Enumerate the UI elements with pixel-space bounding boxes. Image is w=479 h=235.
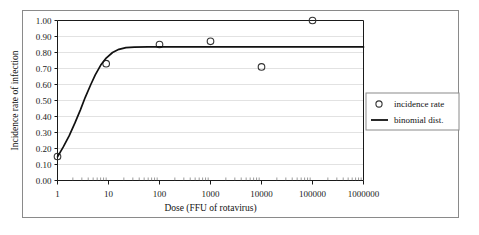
chart-figure: 0.000.100.200.300.400.500.600.700.800.90… <box>0 0 479 235</box>
legend-label-1: binomial dist. <box>394 115 444 125</box>
y-tick-label-9: 0.90 <box>36 32 52 42</box>
y-axis-title: Incidence rate of infection <box>10 50 20 150</box>
y-tick-label-0: 0.00 <box>36 176 52 186</box>
data-point-3 <box>207 38 214 45</box>
legend-label-0: incidence rate <box>394 99 444 109</box>
y-tick-label-1: 0.10 <box>36 160 52 170</box>
x-tick-label-4: 10000 <box>250 189 273 199</box>
x-tick-label-6: 1000000 <box>348 189 380 199</box>
chart-plot: 0.000.100.200.300.400.500.600.700.800.90… <box>0 0 479 235</box>
y-tick-label-6: 0.60 <box>36 80 52 90</box>
data-point-4 <box>258 64 265 71</box>
y-tick-label-5: 0.50 <box>36 96 52 106</box>
x-tick-label-0: 1 <box>55 189 60 199</box>
y-tick-label-8: 0.80 <box>36 48 52 58</box>
y-tick-label-2: 0.20 <box>36 144 52 154</box>
y-tick-label-10: 1.00 <box>36 16 52 26</box>
y-tick-label-7: 0.70 <box>36 64 52 74</box>
x-tick-label-2: 100 <box>153 189 167 199</box>
x-tick-label-1: 10 <box>104 189 114 199</box>
x-tick-label-5: 100000 <box>299 189 327 199</box>
y-tick-label-3: 0.30 <box>36 128 52 138</box>
y-tick-label-4: 0.40 <box>36 112 52 122</box>
x-tick-label-3: 1000 <box>202 189 221 199</box>
x-axis-title: Dose (FFU of rotavirus) <box>164 203 256 214</box>
